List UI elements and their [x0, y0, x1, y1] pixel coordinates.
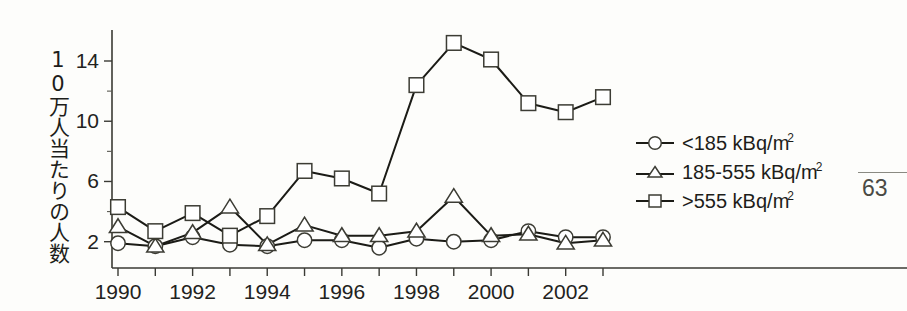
page-rule-divider — [858, 172, 907, 173]
x-tick-label: 1994 — [244, 280, 291, 303]
data-point-square — [484, 52, 499, 67]
triangle-marker-icon — [634, 162, 676, 182]
circle-marker-icon — [634, 133, 676, 153]
legend-item-square[interactable]: >555 kBq/m2 — [634, 186, 864, 215]
legend-item-triangle[interactable]: 185-555 kBq/m2 — [634, 157, 864, 186]
data-point-triangle — [221, 199, 238, 213]
x-tick-label: 2000 — [468, 280, 515, 303]
data-point-square — [185, 206, 200, 221]
legend-item-circle[interactable]: <185 kBq/m2 — [634, 128, 864, 157]
x-tick-label: 2002 — [542, 280, 589, 303]
data-point-square — [111, 200, 126, 215]
data-point-circle — [372, 241, 386, 255]
y-tick-label: 6 — [87, 169, 99, 192]
data-point-square — [521, 96, 536, 111]
x-tick-label: 1992 — [169, 280, 216, 303]
square-marker-icon — [634, 191, 676, 211]
data-point-square — [372, 186, 387, 201]
x-tick-label: 1998 — [393, 280, 440, 303]
x-tick-label: 1990 — [95, 280, 142, 303]
data-point-square — [223, 228, 238, 243]
data-point-triangle — [296, 217, 313, 231]
data-point-square — [446, 36, 461, 51]
y-tick-label: 2 — [87, 230, 99, 253]
data-point-circle — [447, 235, 461, 249]
data-point-circle — [297, 233, 311, 247]
data-point-triangle — [184, 225, 201, 239]
page-number: 63 — [862, 175, 888, 202]
legend-label-square: >555 kBq/m2 — [682, 189, 794, 213]
data-point-circle — [111, 236, 125, 250]
chart-legend: <185 kBq/m2 185-555 kBq/m2 >555 kBq/m2 — [634, 128, 864, 215]
data-point-square — [558, 105, 573, 120]
chart-figure: 10万人当たりの人数 26101419901992199419961998200… — [0, 0, 907, 311]
data-point-square — [409, 78, 424, 93]
legend-label-circle: <185 kBq/m2 — [682, 131, 794, 155]
data-point-square — [148, 224, 163, 239]
data-point-square — [335, 171, 350, 186]
x-tick-label: 1996 — [318, 280, 365, 303]
data-point-square — [596, 90, 611, 105]
data-point-square — [260, 209, 275, 224]
legend-label-triangle: 185-555 kBq/m2 — [682, 160, 822, 184]
data-point-square — [297, 164, 312, 179]
data-point-triangle — [445, 189, 462, 203]
y-tick-label: 14 — [76, 49, 100, 72]
chart-series — [109, 36, 611, 255]
y-tick-label: 10 — [76, 109, 99, 132]
